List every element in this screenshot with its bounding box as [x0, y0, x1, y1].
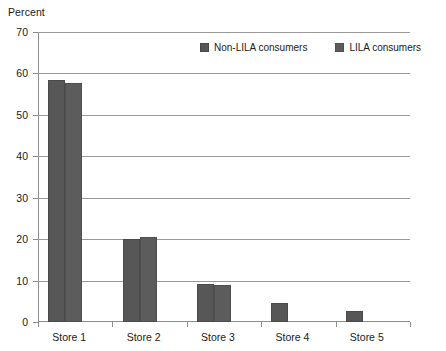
- bar: [65, 83, 82, 322]
- y-tick-mark: [33, 32, 38, 33]
- y-tick-label: 40: [2, 150, 28, 162]
- gridline: [38, 156, 410, 157]
- bar: [346, 311, 363, 322]
- y-tick-label: 20: [2, 233, 28, 245]
- x-tick-label: Store 2: [127, 331, 161, 343]
- x-tick-label: Store 5: [350, 331, 384, 343]
- y-tick-label: 10: [2, 275, 28, 287]
- gridline: [38, 73, 410, 74]
- x-tick-mark: [410, 322, 411, 327]
- y-tick-label: 60: [2, 67, 28, 79]
- bar: [214, 285, 231, 322]
- y-tick-label: 50: [2, 109, 28, 121]
- gridline: [38, 115, 410, 116]
- x-tick-mark: [336, 322, 337, 327]
- gridline: [38, 198, 410, 199]
- y-tick-mark: [33, 73, 38, 74]
- y-tick-mark: [33, 198, 38, 199]
- gridline: [38, 32, 410, 33]
- bar: [48, 80, 65, 322]
- x-tick-mark: [261, 322, 262, 327]
- y-tick-mark: [33, 156, 38, 157]
- bar: [197, 284, 214, 322]
- x-tick-mark: [38, 322, 39, 327]
- x-tick-mark: [187, 322, 188, 327]
- bar: [123, 239, 140, 322]
- bar-chart: Percent Non-LILA consumers LILA consumer…: [0, 0, 446, 351]
- x-tick-mark: [112, 322, 113, 327]
- y-tick-label: 30: [2, 192, 28, 204]
- gridline: [38, 281, 410, 282]
- y-tick-mark: [33, 239, 38, 240]
- gridline: [38, 239, 410, 240]
- x-tick-label: Store 4: [275, 331, 309, 343]
- y-tick-mark: [33, 115, 38, 116]
- bar: [140, 237, 157, 322]
- y-tick-label: 0: [2, 316, 28, 328]
- bar: [271, 303, 288, 322]
- x-tick-label: Store 3: [201, 331, 235, 343]
- x-tick-label: Store 1: [52, 331, 86, 343]
- y-axis-title: Percent: [8, 6, 45, 18]
- y-tick-label: 70: [2, 26, 28, 38]
- y-axis-line: [38, 32, 39, 322]
- y-tick-mark: [33, 281, 38, 282]
- plot-area: 010203040506070Store 1Store 2Store 3Stor…: [38, 32, 410, 322]
